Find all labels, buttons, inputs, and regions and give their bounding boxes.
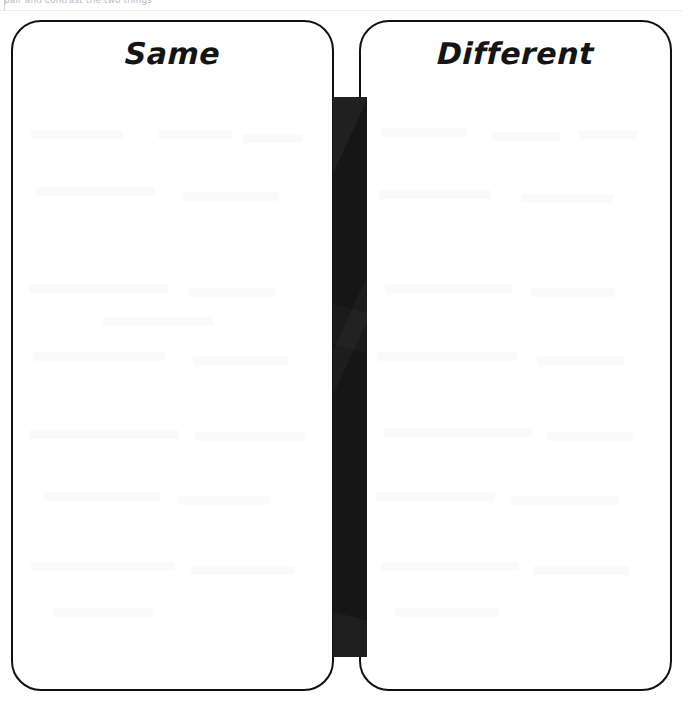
ghost-mark bbox=[521, 194, 613, 203]
overlap-region[interactable] bbox=[333, 97, 367, 657]
ghost-mark bbox=[537, 356, 625, 365]
ghost-mark bbox=[31, 562, 175, 571]
ghost-mark bbox=[377, 352, 517, 361]
ghost-mark bbox=[379, 190, 491, 199]
different-box-label: Different bbox=[360, 36, 670, 71]
different-box-ghost-marks bbox=[361, 22, 670, 689]
ghost-mark bbox=[395, 608, 499, 617]
ghost-mark bbox=[381, 128, 467, 137]
same-box-ghost-marks bbox=[13, 22, 332, 689]
ghost-mark bbox=[103, 317, 213, 326]
ghost-mark bbox=[188, 288, 276, 297]
ghost-mark bbox=[383, 428, 533, 437]
same-box-label: Same bbox=[12, 36, 332, 71]
ghost-mark bbox=[31, 130, 123, 139]
ghost-mark bbox=[53, 608, 153, 617]
ghost-mark bbox=[375, 492, 495, 501]
ghost-mark bbox=[547, 432, 633, 441]
ghost-mark bbox=[243, 134, 303, 143]
different-box[interactable]: Different bbox=[359, 20, 672, 691]
ghost-mark bbox=[29, 430, 179, 439]
ghost-mark bbox=[33, 352, 165, 361]
ghost-mark bbox=[579, 130, 637, 139]
ghost-mark bbox=[381, 562, 519, 571]
ghost-mark bbox=[35, 187, 155, 196]
ghost-mark bbox=[158, 130, 232, 139]
same-box[interactable]: Same bbox=[11, 20, 334, 691]
ghost-mark bbox=[531, 288, 615, 297]
ghost-mark bbox=[43, 492, 161, 501]
ghost-mark bbox=[491, 132, 561, 141]
ghost-mark bbox=[193, 356, 289, 365]
ghost-mark bbox=[533, 566, 629, 575]
ghost-mark bbox=[183, 192, 279, 201]
ghost-mark bbox=[385, 284, 513, 293]
top-divider-rule bbox=[0, 10, 683, 11]
ghost-mark bbox=[178, 496, 270, 505]
ghost-mark bbox=[511, 496, 619, 505]
clipped-instruction-text: pair and contrast the two things bbox=[4, 0, 304, 8]
ghost-mark bbox=[29, 284, 169, 293]
ghost-mark bbox=[191, 566, 295, 575]
ghost-mark bbox=[195, 432, 305, 441]
